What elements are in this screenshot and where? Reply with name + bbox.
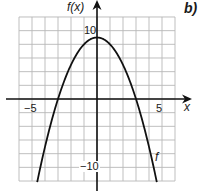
curve-label-f: f <box>155 151 158 163</box>
plot-area <box>0 0 201 191</box>
function-graph: ) b) f(x) x −5 5 10 −10 f <box>0 0 201 191</box>
y-tick-label-pos10: 10 <box>84 25 96 36</box>
y-tick-label-neg10: −10 <box>79 161 100 172</box>
x-tick-label-neg5: −5 <box>24 103 37 114</box>
x-axis-label: x <box>184 101 190 113</box>
y-axis-label: f(x) <box>67 1 84 13</box>
x-tick-label-pos5: 5 <box>156 103 162 114</box>
panel-label: b) <box>184 1 197 15</box>
